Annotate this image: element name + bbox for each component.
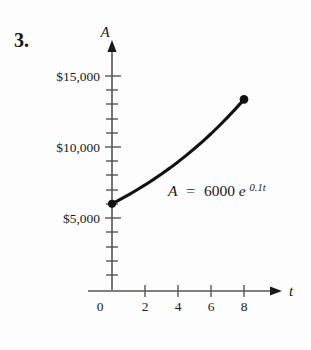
equation-coefficient: 6000: [204, 182, 235, 199]
figure-container: 3.: [0, 0, 311, 350]
y-axis-ticks: [105, 76, 121, 275]
equation-equals: =: [186, 182, 195, 199]
graph-plot: A t $15,000 $10,000 $5,000 0 2 4 6 8 A =…: [0, 0, 311, 350]
equation-base: e: [239, 182, 246, 199]
y-axis-arrow-icon: [107, 40, 116, 52]
curve-end-point: [240, 95, 249, 104]
curve-start-point: [108, 200, 116, 208]
x-tick-label-0: 0: [97, 299, 104, 314]
y-tick-label-5000: $5,000: [63, 211, 100, 226]
x-axis-label: t: [289, 283, 294, 299]
x-tick-label-8: 8: [241, 299, 248, 314]
y-tick-label-10000: $10,000: [56, 140, 100, 155]
x-tick-label-4: 4: [175, 299, 182, 314]
equation-annotation: A = 6000 e 0.1t: [167, 182, 267, 199]
x-axis-arrow-icon: [270, 286, 282, 295]
y-tick-label-15000: $15,000: [56, 69, 100, 84]
y-axis-label: A: [99, 24, 110, 40]
x-tick-label-6: 6: [208, 299, 215, 314]
equation-exponent: 0.1t: [250, 182, 267, 193]
x-tick-label-2: 2: [142, 299, 149, 314]
equation-lhs: A: [167, 182, 178, 199]
